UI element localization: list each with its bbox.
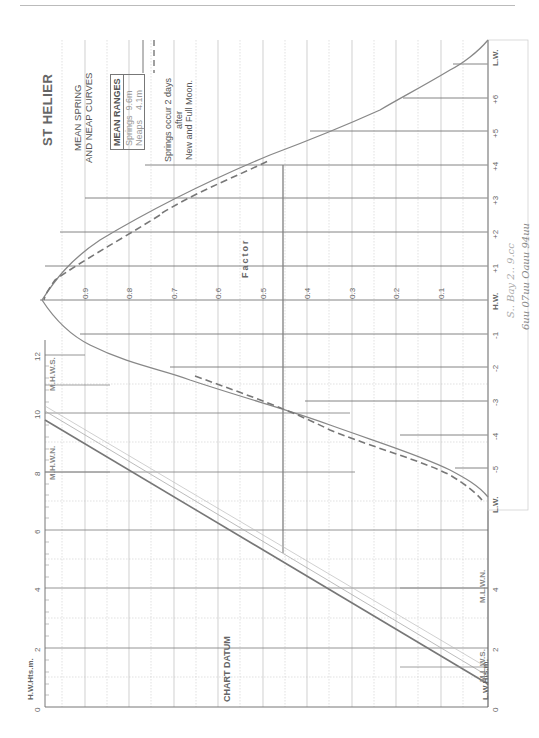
note-line-2: after [174, 78, 185, 162]
hw-tick-2: 2 [33, 648, 42, 652]
mean-ranges-header: MEAN RANGES [111, 75, 124, 149]
handwritten-note-2: 6uu 07uu Oauu 94uu [520, 223, 531, 330]
subtitle-line-1: MEAN SPRING [72, 73, 83, 163]
handwritten-note-1: S.. Bay 2.. 9.cc [505, 243, 516, 318]
hw-tick-6: 6 [33, 530, 42, 534]
chart-datum-label: CHART DATUM [222, 636, 232, 702]
time-tick-minus3: -3 [491, 399, 500, 406]
time-tick-hw: H.W. [491, 293, 500, 310]
mlws-label: M.L.W.S. [478, 649, 487, 682]
springs-range-diagonal [45, 420, 488, 684]
mlwn-label: M.L.W.N. [478, 570, 487, 603]
factor-tick-0-5: 0.5 [259, 288, 268, 299]
pencil-diagonal-2 [45, 406, 488, 668]
time-tick-plus4: +4 [491, 162, 500, 171]
time-tick-plus1: +1 [491, 264, 500, 273]
note-line-3: New and Full Moon. [184, 78, 195, 162]
height-axis-ticks [45, 366, 49, 695]
time-tick-minus1: -1 [491, 332, 500, 339]
hw-tick-0: 0 [33, 708, 42, 712]
time-tick-lw-start: L.W. [491, 497, 500, 513]
legend-neaps-value: 4.1m [134, 90, 144, 110]
hw-tick-4: 4 [33, 588, 42, 592]
factor-tick-0-3: 0.3 [348, 288, 357, 299]
mhws-label: M.H.W.S. [48, 357, 57, 391]
mean-ranges-box: MEAN RANGES Springs 9.6m Neaps 4.1m [110, 74, 145, 150]
time-tick-plus3: +3 [491, 196, 500, 205]
factor-axis-label: Factor [240, 238, 250, 278]
chart-title: ST HELIER [40, 74, 55, 146]
hw-axis-title: H.W.Hts.m. [26, 658, 35, 700]
note-line-1: Springs occur 2 days [163, 78, 174, 162]
subtitle-line-2: AND NEAP CURVES [83, 73, 94, 163]
time-tick-minus2: -2 [491, 365, 500, 372]
time-tick-plus5: +5 [491, 129, 500, 138]
time-tick-minus5: -5 [491, 466, 500, 473]
factor-tick-0-7: 0.7 [170, 288, 179, 299]
chart-subtitle: MEAN SPRING AND NEAP CURVES [72, 73, 94, 163]
neaps-curve-upper [162, 160, 270, 213]
lw-tick-4: 4 [491, 588, 500, 592]
mhwn-label: M.H.W.N. [48, 446, 57, 480]
lw-tick-0: 0 [491, 708, 500, 712]
lw-tick-2: 2 [491, 648, 500, 652]
hw-tick-8: 8 [33, 472, 42, 476]
height-grid [45, 355, 488, 648]
factor-tick-0-1: 0.1 [437, 288, 446, 299]
hw-tick-12: 12 [33, 352, 42, 361]
pencil-diagonal-1 [45, 411, 488, 676]
legend-springs-label: Springs [124, 115, 134, 146]
legend-springs-value: 9.6m [124, 90, 134, 110]
time-tick-plus2: +2 [491, 230, 500, 239]
time-tick-lw-end: L.W. [491, 50, 500, 66]
springs-curve [42, 40, 488, 497]
legend-neaps: Neaps 4.1m [134, 75, 144, 149]
hw-tick-10: 10 [33, 410, 42, 419]
time-tick-plus6: +6 [491, 95, 500, 104]
factor-tick-0-6: 0.6 [214, 288, 223, 299]
factor-tick-0-2: 0.2 [392, 288, 401, 299]
legend-springs: Springs 9.6m [124, 75, 134, 149]
time-tick-minus4: -4 [491, 433, 500, 440]
legend-neaps-label: Neaps [134, 120, 144, 146]
springs-note: Springs occur 2 days after New and Full … [163, 78, 195, 162]
factor-tick-0-8: 0.8 [125, 288, 134, 299]
factor-tick-0-9: 0.9 [81, 288, 90, 299]
factor-tick-0-4: 0.4 [303, 288, 312, 299]
